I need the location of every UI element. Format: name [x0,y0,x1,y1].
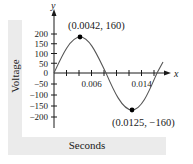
trough-marker [130,108,135,113]
y-tick-labels: 200 150 100 50 0 −50 −100 −150 −200 [29,29,48,122]
svg-text:−100: −100 [29,90,48,100]
x-axis-letter: x [173,68,179,79]
svg-text:0.014: 0.014 [131,79,152,89]
svg-text:0.006: 0.006 [81,79,102,89]
peak-marker [78,35,83,40]
peak-annotation: (0.0042, 160) [68,20,125,32]
x-axis [54,71,171,76]
y-axis-letter: y [50,0,56,11]
svg-text:−150: −150 [29,101,48,111]
trough-annotation: (0.0125, −160) [112,117,175,129]
svg-text:50: 50 [39,59,49,69]
svg-text:150: 150 [35,39,49,49]
chart-plot: y x 200 150 100 50 0 −50 −100 −150 −200 [0,0,193,164]
svg-text:−50: −50 [34,79,49,89]
svg-text:200: 200 [35,29,49,39]
svg-text:−200: −200 [29,112,48,122]
svg-text:0: 0 [44,68,49,78]
x-tick-labels: 0.006 0.014 [81,79,152,89]
x-arrow-icon [164,71,171,76]
svg-text:100: 100 [35,49,49,59]
